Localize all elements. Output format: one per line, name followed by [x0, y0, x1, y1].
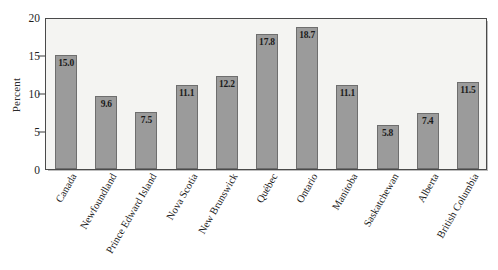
bar[interactable]: 11.1 — [336, 85, 358, 169]
bar-value-label: 12.2 — [217, 79, 237, 89]
x-axis-labels: CanadaNewfoundlandPrince Edward IslandNo… — [45, 172, 487, 270]
bar-value-label: 15.0 — [56, 58, 76, 68]
bar[interactable]: 12.2 — [216, 76, 238, 169]
bar-value-label: 17.8 — [257, 37, 277, 47]
bar-value-label: 11.5 — [458, 85, 478, 95]
bar-value-label: 18.7 — [297, 30, 317, 40]
bar[interactable]: 18.7 — [296, 27, 318, 169]
bars-group: 15.09.67.511.112.217.818.711.15.87.411.5 — [46, 19, 486, 169]
bar[interactable]: 7.4 — [417, 113, 439, 169]
x-tick-label: Newfoundland — [79, 172, 119, 231]
bar[interactable]: 9.6 — [95, 96, 117, 169]
bar[interactable]: 15.0 — [55, 55, 77, 169]
x-tick-label: Québec — [255, 172, 280, 205]
bar-value-label: 7.5 — [136, 115, 156, 125]
bar[interactable]: 7.5 — [135, 112, 157, 169]
bar[interactable]: 11.5 — [457, 82, 479, 169]
plot-area: 15.09.67.511.112.217.818.711.15.87.411.5 — [45, 18, 487, 170]
x-tick-label: Ontario — [295, 172, 320, 205]
bar-value-label: 7.4 — [418, 116, 438, 126]
x-tick-label: Canada — [54, 172, 79, 205]
x-tick-label: Nova Scotia — [165, 172, 200, 222]
bar-value-label: 11.1 — [177, 88, 197, 98]
y-tick-label: 0 — [34, 164, 45, 176]
x-tick-label: Saskatchewan — [362, 172, 401, 229]
bar[interactable]: 11.1 — [176, 85, 198, 169]
y-tick-mark — [38, 94, 45, 95]
x-tick-label: Manitoba — [331, 172, 360, 212]
bar[interactable]: 5.8 — [377, 125, 399, 169]
bar[interactable]: 17.8 — [256, 34, 278, 169]
bar-value-label: 9.6 — [96, 99, 116, 109]
x-tick-label: New Brunswick — [197, 172, 240, 236]
y-tick-mark — [38, 56, 45, 57]
y-axis-ticks: 05101520 — [0, 0, 45, 270]
x-tick-label: Alberta — [416, 172, 441, 205]
x-tick-label: British Columbia — [436, 172, 481, 240]
bar-value-label: 5.8 — [378, 128, 398, 138]
y-tick-mark — [38, 132, 45, 133]
bar-chart-figure: Percent 05101520 15.09.67.511.112.217.81… — [0, 0, 498, 270]
bar-value-label: 11.1 — [337, 88, 357, 98]
y-tick-label: 20 — [29, 12, 46, 24]
